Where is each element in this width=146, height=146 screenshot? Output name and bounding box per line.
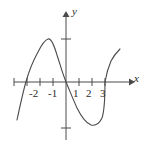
x-tick-label-minus-1: -1 [48,88,57,99]
x-axis-group [14,79,135,86]
y-axis-arrowhead [63,11,70,17]
x-axis-label: x [134,73,139,84]
x-tick-label-3: 3 [100,88,106,99]
graph-figure: -2 -1 1 2 3 x y [0,0,146,146]
y-axis-label: y [72,6,77,17]
x-tick-label-minus-2: -2 [29,88,38,99]
x-tick-label-2: 2 [86,88,92,99]
x-tick-label-1: 1 [73,88,79,99]
graph-canvas [0,0,146,146]
